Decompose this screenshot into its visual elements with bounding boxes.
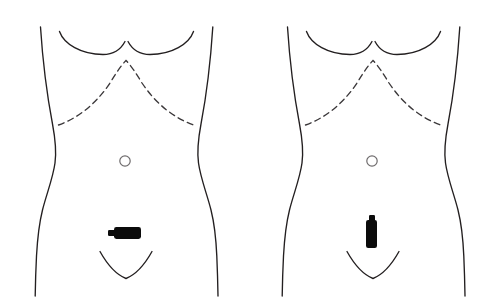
right-costal-margin	[306, 61, 441, 126]
right-pubic-curve	[347, 252, 399, 279]
left-torso-outline-right-side	[198, 27, 218, 296]
left-breast-curve-right	[128, 32, 194, 55]
right-navel-icon	[367, 156, 377, 166]
left-breast-curve-left	[60, 32, 126, 55]
right-torso-outline-right-side	[445, 27, 465, 296]
right-torso-outline-left-side	[282, 27, 302, 296]
left-transverse-incision-marker[interactable]	[108, 227, 141, 239]
left-torso-diagram[interactable]	[35, 27, 218, 296]
left-navel-icon	[120, 156, 130, 166]
left-pubic-curve	[100, 252, 152, 279]
left-torso-outline-left-side	[35, 27, 55, 296]
right-torso-diagram[interactable]	[282, 27, 465, 296]
right-breast-curve-right	[375, 32, 441, 55]
right-breast-curve-left	[307, 32, 373, 55]
figure-canvas	[0, 0, 487, 308]
right-vertical-incision-marker[interactable]	[366, 215, 377, 248]
torso-diagram-svg	[0, 0, 487, 308]
left-costal-margin	[59, 61, 194, 126]
